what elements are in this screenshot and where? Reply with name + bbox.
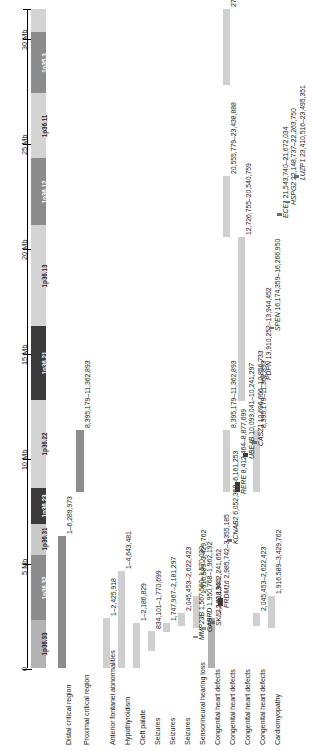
bar-coordinate-label: 1–2,186,829	[141, 583, 148, 621]
bar-coordinate-label: 8,395,179–11,362,893	[231, 360, 238, 427]
gene-label: KCNAB2 6,052,358–6,161,253	[233, 450, 240, 543]
ideogram	[31, 9, 46, 668]
row-label: Congenital heart defects	[230, 669, 237, 745]
ideogram-band-label: 1p36.13	[42, 264, 48, 287]
bar-coordinate-label: 1,747,967–2,181,297	[171, 556, 178, 620]
axis-end-cap-bottom	[23, 669, 32, 670]
gene-label: CASZ1 10,696,666–10,856,733	[258, 350, 265, 446]
data-bar	[253, 613, 260, 625]
data-bar	[133, 623, 140, 669]
row-label: Congenital heart defects	[260, 669, 267, 745]
data-bar	[76, 430, 84, 492]
data-bar	[178, 613, 185, 625]
gene-mark	[227, 539, 232, 542]
bar-coordinate-label: 2,045,453–2,622,423	[261, 547, 268, 611]
gene-label: UBE4B 10,093,041–10,241,297	[249, 363, 256, 459]
gene-label: PDPN 13,910,252–13,944,452	[266, 288, 273, 381]
row-label: Congenital heart defects	[245, 669, 252, 745]
bar-coordinate-label: 2,045,453–2,622,423	[186, 547, 193, 611]
row-label: Congenital heart defects	[215, 669, 222, 745]
data-bar	[268, 596, 275, 628]
bar-coordinate-label: 27,803,719–31,404,471	[231, 0, 238, 7]
gene-label: SKI 2,160,134–2,241,652	[216, 549, 223, 626]
axis-tick-label: 10 Mb	[21, 449, 28, 469]
row-label: Anterior fontanel abnormalities	[110, 650, 117, 745]
axis-tick-label: 30 Mb	[21, 29, 28, 49]
ideogram-band	[31, 9, 46, 32]
ideogram-band-label: 1p36.11	[42, 114, 48, 136]
bar-coordinate-label: 834,101–1,770,699	[156, 571, 163, 630]
row-label: Seizures	[170, 718, 177, 745]
row-label: Seizures	[155, 718, 162, 745]
gene-label: LUZP1 23,410,516–23,495,351	[300, 85, 307, 180]
axis-tick-label: 20 Mb	[21, 239, 28, 259]
gene-mark	[269, 327, 274, 330]
ideogram-band-label: 1p36.32	[42, 576, 48, 599]
ideogram-band-label: 1p36.31	[42, 528, 48, 551]
gene-label: RERE 8,412,464–8,877,699	[241, 409, 248, 494]
data-bar	[148, 631, 155, 651]
bar-coordinate-label: 1–2,425,918	[111, 578, 118, 616]
axis-tick-label: 15 Mb	[21, 344, 28, 364]
bar-coordinate-label: 20,555,779–23,438,888	[231, 103, 238, 175]
data-bar	[238, 237, 245, 401]
row-label: Proximal critical region	[84, 675, 91, 745]
figure-canvas: 05 Mb10 Mb15 Mb20 Mb25 Mb30 Mb1p36.331p3…	[0, 0, 314, 751]
gene-label: ECE1 21,543,740–21,672,034	[283, 127, 290, 218]
bar-coordinate-label: 8,395,179–11,362,893	[85, 360, 92, 427]
gene-label: HSPG2 22,148,737–22,263,750	[291, 109, 298, 206]
data-bar	[223, 176, 230, 237]
row-label: Cleft palate	[140, 710, 147, 745]
bar-coordinate-label: 1,916,589–3,429,762	[276, 530, 283, 594]
row-label: Distal critical region	[66, 685, 73, 745]
ideogram-band-label: 1p36.22	[42, 432, 48, 455]
data-bar	[118, 571, 125, 669]
bar-coordinate-label: 12,726,755–20,540,759	[246, 163, 253, 235]
bar-coordinate-label: 1–6,289,973	[67, 497, 74, 535]
data-bar	[223, 430, 230, 492]
data-bar	[223, 9, 230, 85]
bar-coordinate-label: 1–4,643,481	[126, 531, 133, 569]
ideogram-band-label: 1p36.33	[42, 633, 48, 656]
gene-label: GABRD 1,950,768–1,962,192	[207, 541, 214, 631]
data-bar	[163, 623, 170, 632]
row-label: Seizures	[185, 718, 192, 745]
ideogram-band-label: 1p35.3	[42, 53, 48, 72]
axis-tick-label: 5 Mb	[21, 558, 28, 574]
data-bar	[58, 536, 66, 668]
ideogram-band-label: 1p36.23	[42, 494, 48, 517]
gene-label: SPEN 16,174,359–16,266,950	[275, 239, 282, 331]
gene-label: MMP23B 1,567,560–1,570,030	[199, 546, 206, 640]
ideogram-band-label: 1p36.21	[42, 352, 48, 375]
row-label: Cardiomyopathy	[275, 694, 282, 745]
ideogram-band-label: 1p36.12	[42, 180, 48, 203]
row-label: Sensorineural hearing loss	[200, 662, 207, 745]
row-label: Hypothyroidism	[125, 697, 132, 745]
gene-label: PRDM16 2,985,742–3,355,185	[224, 514, 231, 608]
axis-tick-label: 25 Mb	[21, 134, 28, 154]
